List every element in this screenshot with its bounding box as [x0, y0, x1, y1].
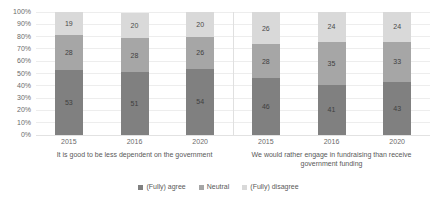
x-axis-year-label: 2016 — [324, 137, 340, 147]
bar-value-label: 33 — [393, 58, 401, 65]
bar-segment-agree: 51 — [121, 72, 149, 135]
chart-legend: (Fully) agreeNeutral(Fully) disagree — [0, 181, 437, 193]
bar-value-label: 26 — [262, 25, 270, 32]
bar-segment-agree: 54 — [186, 69, 214, 135]
bar-value-label: 20 — [131, 22, 139, 29]
legend-swatch-icon — [138, 185, 143, 190]
bar-value-label: 28 — [262, 58, 270, 65]
bar-2015-group2: 462826 — [252, 12, 280, 135]
bar-value-label: 41 — [328, 106, 336, 113]
y-axis-tick-label: 30% — [17, 94, 31, 102]
bar-value-label: 20 — [196, 21, 204, 28]
x-axis-group-label: We would rather engage in fundraising th… — [241, 150, 422, 168]
bar-value-label: 26 — [196, 49, 204, 56]
legend-label: Neutral — [207, 183, 230, 191]
bar-2020-group2: 433324 — [383, 12, 411, 135]
bar-segment-neutral: 33 — [383, 42, 411, 83]
bar-segment-agree: 43 — [383, 82, 411, 135]
bar-segment-disagree: 26 — [252, 12, 280, 44]
y-axis-tick-label: 90% — [17, 20, 31, 28]
stacked-bar-chart: 0%10%20%30%40%50%60%70%80%90%100% 532819… — [0, 0, 437, 197]
bar-segment-neutral: 28 — [55, 35, 83, 69]
legend-swatch-icon — [242, 185, 247, 190]
bar-2016-group2: 413524 — [318, 12, 346, 135]
bar-segment-disagree: 19 — [55, 12, 83, 35]
bar-value-label: 43 — [393, 105, 401, 112]
bar-segment-neutral: 28 — [252, 44, 280, 78]
bar-segment-disagree: 20 — [121, 13, 149, 38]
bar-value-label: 28 — [65, 49, 73, 56]
bar-value-label: 35 — [328, 60, 336, 67]
bar-value-label: 19 — [65, 20, 73, 27]
bar-2016-group1: 512820 — [121, 12, 149, 135]
y-axis-tick-label: 0% — [21, 131, 31, 139]
x-axis-group-label: It is good to be less dependent on the g… — [44, 150, 225, 159]
y-axis-tick-label: 100% — [13, 8, 31, 16]
bar-segment-neutral: 35 — [318, 42, 346, 85]
x-axis-year-labels: 201520162020201520162020 — [36, 137, 430, 149]
bar-value-label: 51 — [131, 100, 139, 107]
y-axis-tick-label: 50% — [17, 70, 31, 78]
x-axis-year-label: 2020 — [389, 137, 405, 147]
bar-value-label: 24 — [328, 23, 336, 30]
bars-layer: 532819512820542620462826413524433324 — [36, 12, 430, 135]
bar-segment-disagree: 24 — [318, 12, 346, 42]
bar-value-label: 24 — [393, 23, 401, 30]
y-axis-tick-label: 40% — [17, 82, 31, 90]
y-axis-tick-label: 10% — [17, 119, 31, 127]
bar-segment-agree: 53 — [55, 70, 83, 135]
bar-2020-group1: 542620 — [186, 12, 214, 135]
y-axis-tick-label: 80% — [17, 33, 31, 41]
x-axis-year-label: 2020 — [192, 137, 208, 147]
y-axis-tick-label: 20% — [17, 106, 31, 114]
bar-segment-agree: 46 — [252, 78, 280, 135]
bar-2015-group1: 532819 — [55, 12, 83, 135]
x-axis-year-label: 2015 — [61, 137, 77, 147]
y-axis-tick-label: 60% — [17, 57, 31, 65]
bar-segment-neutral: 26 — [186, 37, 214, 69]
x-axis-year-label: 2016 — [127, 137, 143, 147]
bar-value-label: 28 — [131, 52, 139, 59]
y-axis-tick-label: 70% — [17, 45, 31, 53]
bar-segment-disagree: 24 — [383, 12, 411, 42]
legend-item[interactable]: (Fully) agree — [138, 183, 185, 191]
bar-value-label: 46 — [262, 103, 270, 110]
legend-swatch-icon — [199, 185, 204, 190]
bar-segment-disagree: 20 — [186, 12, 214, 37]
x-axis-group-labels: It is good to be less dependent on the g… — [36, 150, 430, 176]
legend-item[interactable]: (Fully) disagree — [242, 183, 298, 191]
bar-segment-neutral: 28 — [121, 38, 149, 72]
bar-value-label: 54 — [196, 98, 204, 105]
legend-item[interactable]: Neutral — [199, 183, 230, 191]
x-axis-year-label: 2015 — [258, 137, 274, 147]
bar-segment-agree: 41 — [318, 85, 346, 135]
bar-value-label: 53 — [65, 99, 73, 106]
y-axis: 0%10%20%30%40%50%60%70%80%90%100% — [0, 12, 34, 135]
legend-label: (Fully) disagree — [250, 183, 298, 191]
plot-area: 532819512820542620462826413524433324 — [36, 12, 430, 135]
legend-label: (Fully) agree — [146, 183, 185, 191]
